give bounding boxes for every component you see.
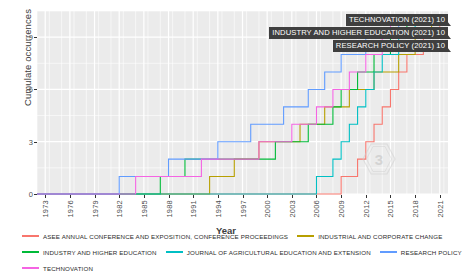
legend-color-swatch — [166, 251, 183, 253]
legend-item[interactable]: ASEE ANNUAL CONFERENCE AND EXPOSITION, C… — [22, 233, 288, 240]
svg-text:3: 3 — [375, 151, 383, 168]
x-tick-mark — [341, 195, 342, 198]
legend-color-swatch — [22, 235, 39, 237]
legend-row: ASEE ANNUAL CONFERENCE AND EXPOSITION, C… — [22, 228, 442, 244]
legend-row: TECHNOVATION — [22, 260, 442, 276]
legend-color-swatch — [22, 251, 39, 253]
x-tick-mark — [119, 195, 120, 198]
y-tick-mark — [34, 37, 37, 38]
x-tick-mark — [144, 195, 145, 198]
data-point-label: TECHNOVATION (2021) 10 — [346, 14, 448, 26]
legend-item[interactable]: INDUSTRY AND HIGHER EDUCATION — [22, 249, 157, 256]
x-tick-mark — [440, 195, 441, 198]
x-tick-mark — [366, 195, 367, 198]
legend-item-label: INDUSTRY AND HIGHER EDUCATION — [43, 249, 157, 256]
x-tick-mark — [415, 195, 416, 198]
y-tick-mark — [34, 142, 37, 143]
legend-item-label: JOURNAL OF AGRICULTURAL EDUCATION AND EX… — [187, 249, 371, 256]
x-tick-mark — [169, 195, 170, 198]
y-axis-title: Cumulate occurrences — [22, 0, 33, 138]
x-tick-mark — [390, 195, 391, 198]
x-tick-mark — [267, 195, 268, 198]
y-tick-label: 0 — [3, 190, 33, 199]
chart-legend: ASEE ANNUAL CONFERENCE AND EXPOSITION, C… — [22, 228, 442, 276]
x-tick-mark — [95, 195, 96, 198]
data-point-label: RESEARCH POLICY (2021) 10 — [333, 40, 448, 52]
legend-color-swatch — [297, 235, 314, 237]
x-tick-mark — [218, 195, 219, 198]
x-tick-label: 1979 — [91, 200, 100, 218]
legend-item[interactable]: INDUSTRIAL AND CORPORATE CHANGE — [297, 233, 442, 240]
legend-color-swatch — [22, 267, 39, 269]
legend-item-label: RESEARCH POLICY — [401, 249, 462, 256]
x-tick-label: 1988 — [165, 200, 174, 218]
x-tick-label: 2006 — [312, 200, 321, 218]
hexagon-watermark: 3 — [362, 143, 396, 175]
x-tick-label: 1973 — [41, 200, 50, 218]
x-tick-label: 2009 — [337, 200, 346, 218]
x-tick-mark — [243, 195, 244, 198]
x-tick-mark — [70, 195, 71, 198]
legend-color-swatch — [380, 251, 397, 253]
y-tick-label: 6 — [3, 85, 33, 94]
y-tick-mark — [34, 89, 37, 90]
y-tick-label: 9 — [3, 33, 33, 42]
x-tick-mark — [292, 195, 293, 198]
x-tick-label: 2018 — [411, 200, 420, 218]
x-tick-label: 2000 — [263, 200, 272, 218]
x-tick-label: 1985 — [140, 200, 149, 218]
x-tick-mark — [45, 195, 46, 198]
x-tick-label: 2021 — [436, 200, 445, 218]
data-point-label: INDUSTRY AND HIGHER EDUCATION (2021) 10 — [269, 27, 448, 39]
x-tick-label: 1982 — [115, 200, 124, 218]
x-tick-label: 1991 — [189, 200, 198, 218]
x-tick-label: 2015 — [386, 200, 395, 218]
legend-item-label: TECHNOVATION — [43, 265, 93, 272]
legend-item[interactable]: JOURNAL OF AGRICULTURAL EDUCATION AND EX… — [166, 249, 371, 256]
legend-item[interactable]: RESEARCH POLICY — [380, 249, 462, 256]
x-tick-label: 1994 — [214, 200, 223, 218]
x-tick-mark — [193, 195, 194, 198]
y-tick-mark — [34, 194, 37, 195]
x-tick-label: 2003 — [288, 200, 297, 218]
x-tick-label: 1997 — [239, 200, 248, 218]
x-tick-label: 2012 — [362, 200, 371, 218]
legend-item[interactable]: TECHNOVATION — [22, 265, 93, 272]
legend-item-label: INDUSTRIAL AND CORPORATE CHANGE — [318, 233, 442, 240]
x-tick-mark — [316, 195, 317, 198]
y-tick-label: 3 — [3, 137, 33, 146]
legend-row: INDUSTRY AND HIGHER EDUCATIONJOURNAL OF … — [22, 244, 442, 260]
x-tick-label: 1976 — [66, 200, 75, 218]
legend-item-label: ASEE ANNUAL CONFERENCE AND EXPOSITION, C… — [43, 233, 288, 240]
